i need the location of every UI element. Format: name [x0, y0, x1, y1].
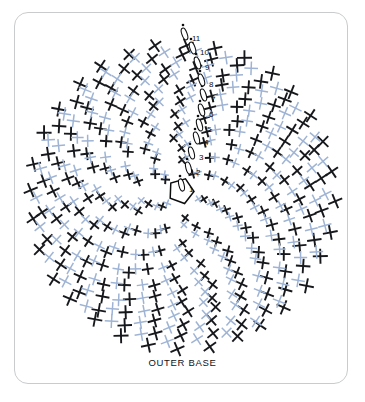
stitch-label-4: 4: [204, 139, 208, 147]
stitch-label-7: 7: [211, 96, 215, 104]
weaving-diagram: [0, 0, 365, 402]
stitch-label-6: 6: [209, 111, 213, 119]
stitch-label-5: 5: [207, 126, 211, 134]
stitch-label-8: 8: [209, 81, 213, 89]
caption-outer-base: OUTER BASE: [0, 357, 365, 368]
stitch-label-2: 2: [196, 169, 200, 177]
stitch-label-11: 11: [192, 35, 200, 43]
stitch-label-10: 10: [200, 49, 209, 57]
stitch-label-9: 9: [205, 64, 209, 72]
stitch-label-3: 3: [199, 154, 203, 162]
stitch-label-1: 1: [189, 186, 193, 194]
